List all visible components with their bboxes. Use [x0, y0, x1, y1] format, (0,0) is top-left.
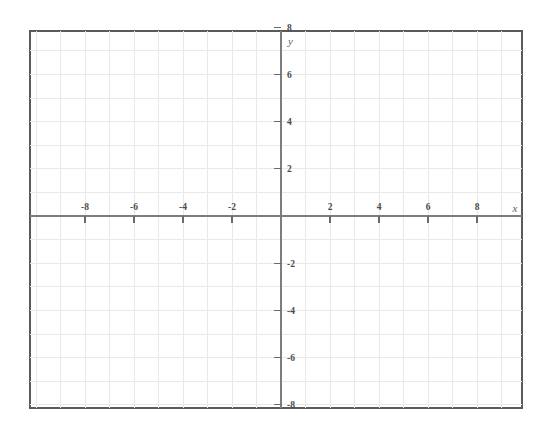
y-tick-label: -2: [287, 259, 295, 269]
x-axis-label: x: [512, 202, 518, 214]
x-tick-label: -8: [81, 202, 89, 212]
y-tick-label: -4: [287, 306, 295, 316]
y-tick-label: -6: [287, 353, 295, 363]
x-tick-label: -6: [130, 202, 138, 212]
y-tick-label: -8: [287, 400, 295, 410]
x-tick-label: -2: [228, 202, 236, 212]
y-tick-label: 4: [287, 117, 292, 127]
y-tick-label: 6: [287, 70, 292, 80]
y-axis-label: y: [287, 35, 293, 47]
x-tick-label: 6: [426, 202, 431, 212]
x-tick-label: 4: [377, 202, 382, 212]
y-tick-label: 8: [287, 23, 292, 33]
x-tick-label: 8: [475, 202, 480, 212]
plot-area-border: [30, 31, 522, 408]
graph-canvas: -8-6-4-22468 8642-2-4-6-8 x y: [0, 0, 552, 439]
x-tick-label: -4: [179, 202, 187, 212]
x-tick-label: 2: [328, 202, 333, 212]
y-tick-label: 2: [287, 164, 292, 174]
coordinate-grid-figure: -8-6-4-22468 8642-2-4-6-8 x y: [0, 0, 552, 439]
